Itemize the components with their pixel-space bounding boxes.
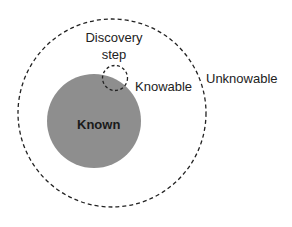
unknowable-label: Unknowable [206, 71, 278, 86]
knowable-label: Knowable [135, 79, 192, 94]
known-label: Known [77, 117, 120, 132]
discovery-label-line2: step [82, 47, 146, 62]
discovery-label-line1: Discovery [82, 30, 146, 45]
discovery-step-label: Discovery step [82, 30, 146, 62]
diagram-canvas [0, 0, 292, 227]
